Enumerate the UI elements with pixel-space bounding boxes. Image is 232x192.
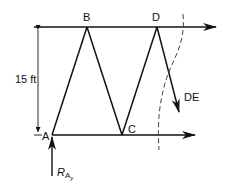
node-label-b: B [83, 11, 90, 23]
node-label-a: A [42, 130, 50, 142]
node-label-d: D [152, 11, 160, 23]
member-cd [122, 27, 157, 135]
truss-diagram: B D A C 15 ft DE RAy [0, 0, 232, 192]
dimension-label: 15 ft [15, 73, 36, 85]
member-de-force-arrow [157, 27, 179, 112]
node-label-c: C [128, 123, 136, 135]
reaction-label-sub2: y [69, 175, 74, 181]
member-ab [52, 27, 87, 135]
reaction-label: RAy [57, 166, 74, 181]
reaction-label-main: R [57, 166, 65, 178]
member-bc [87, 27, 122, 135]
member-force-label-de: DE [184, 91, 199, 103]
